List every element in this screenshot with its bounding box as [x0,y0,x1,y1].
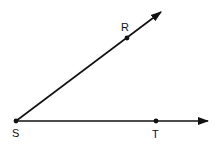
ray-sr [16,12,161,121]
point-s [14,119,19,124]
angle-diagram: R S T [0,0,222,145]
label-s: S [12,127,19,139]
label-t: T [152,128,159,140]
label-r: R [121,21,129,33]
point-r [125,36,130,41]
point-t [154,119,159,124]
